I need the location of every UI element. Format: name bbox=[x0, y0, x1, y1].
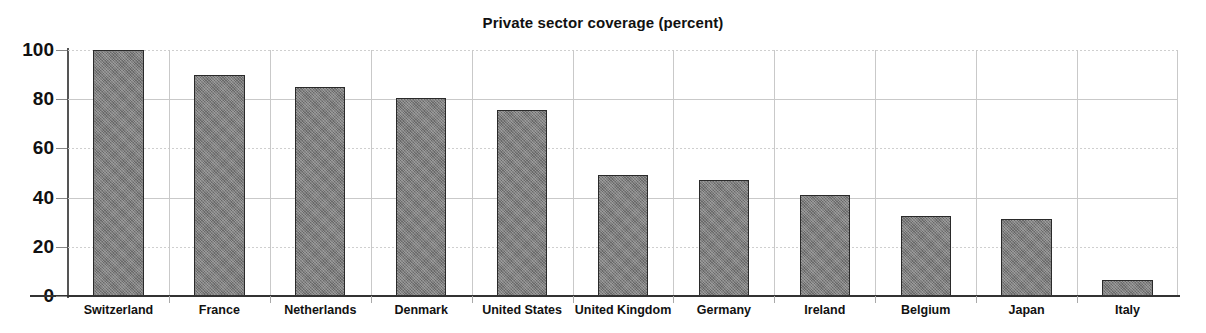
x-axis-tick-mark bbox=[673, 296, 674, 303]
y-axis-tick-mark bbox=[56, 247, 67, 248]
x-gridline bbox=[270, 50, 271, 296]
x-axis-tick-label: Italy bbox=[1115, 303, 1140, 317]
bar-germany[interactable] bbox=[699, 180, 749, 296]
x-gridline bbox=[774, 50, 775, 296]
x-axis-tick-mark bbox=[1077, 296, 1078, 303]
x-axis-tick-label: France bbox=[199, 303, 240, 317]
x-gridline bbox=[1077, 50, 1078, 296]
bar-switzerland[interactable] bbox=[93, 50, 143, 296]
x-axis-tick-mark bbox=[169, 296, 170, 303]
bar-belgium[interactable] bbox=[901, 216, 951, 296]
x-axis-tick-label: Switzerland bbox=[84, 303, 153, 317]
bar-chart: Private sector coverage (percent) 020406… bbox=[0, 0, 1206, 333]
x-gridline bbox=[169, 50, 170, 296]
x-axis-tick-mark bbox=[573, 296, 574, 303]
x-axis-tick-label: United Kingdom bbox=[575, 303, 672, 317]
y-axis-labels: 020406080100 bbox=[0, 0, 54, 333]
x-axis-tick-label: Netherlands bbox=[284, 303, 356, 317]
x-axis-tick-label: Denmark bbox=[394, 303, 448, 317]
y-axis-tick-label: 100 bbox=[2, 39, 54, 61]
y-axis-tick-mark bbox=[56, 50, 67, 51]
bar-italy[interactable] bbox=[1102, 280, 1152, 296]
x-gridline bbox=[976, 50, 977, 296]
y-axis-tick-label: 40 bbox=[2, 187, 54, 209]
x-axis-tick-mark bbox=[371, 296, 372, 303]
x-gridline bbox=[673, 50, 674, 296]
y-axis-tick-mark bbox=[56, 198, 67, 199]
x-axis-tick-mark bbox=[976, 296, 977, 303]
x-axis-tick-label: Belgium bbox=[901, 303, 950, 317]
y-axis-tick-mark bbox=[56, 99, 67, 100]
x-axis-tick-mark bbox=[875, 296, 876, 303]
y-axis-tick-label: 20 bbox=[2, 236, 54, 258]
y-axis-tick-mark bbox=[56, 296, 67, 297]
plot-right-border bbox=[1177, 50, 1178, 296]
bar-united-kingdom[interactable] bbox=[598, 175, 648, 296]
x-gridline bbox=[573, 50, 574, 296]
x-axis-tick-mark bbox=[270, 296, 271, 303]
y-axis-tick-label: 80 bbox=[2, 88, 54, 110]
y-gridline bbox=[68, 50, 1178, 51]
x-axis-tick-label: Japan bbox=[1009, 303, 1045, 317]
bar-france[interactable] bbox=[194, 75, 244, 296]
plot-area bbox=[68, 50, 1178, 296]
x-axis-tick-label: Germany bbox=[697, 303, 751, 317]
y-axis-tick-label: 60 bbox=[2, 137, 54, 159]
x-axis-tick-label: Ireland bbox=[804, 303, 845, 317]
x-axis-tick-mark bbox=[472, 296, 473, 303]
bar-netherlands[interactable] bbox=[295, 87, 345, 296]
x-axis-line bbox=[30, 295, 1180, 297]
y-axis-tick-mark bbox=[56, 148, 67, 149]
bar-ireland[interactable] bbox=[800, 195, 850, 296]
bar-united-states[interactable] bbox=[497, 110, 547, 296]
x-gridline bbox=[371, 50, 372, 296]
bar-denmark[interactable] bbox=[396, 98, 446, 296]
x-gridline bbox=[875, 50, 876, 296]
x-axis-tick-label: United States bbox=[482, 303, 562, 317]
x-gridline bbox=[472, 50, 473, 296]
chart-title: Private sector coverage (percent) bbox=[0, 14, 1206, 31]
x-axis-tick-mark bbox=[774, 296, 775, 303]
bar-japan[interactable] bbox=[1001, 219, 1051, 296]
